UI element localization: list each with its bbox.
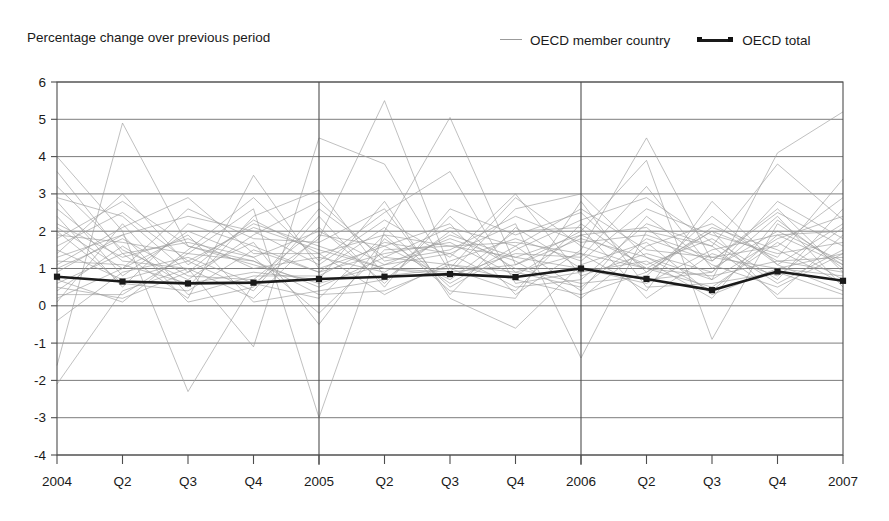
oecd-total-marker <box>447 271 453 277</box>
chart-page: Percentage change over previous period O… <box>0 0 889 521</box>
oecd-total-marker <box>185 280 191 286</box>
x-axis-label: 2007 <box>828 474 858 489</box>
x-axis: 2004Q2Q3Q42005Q2Q3Q42006Q2Q3Q42007 <box>42 455 858 489</box>
oecd-total-marker <box>578 265 584 271</box>
x-axis-label: Q2 <box>375 474 393 489</box>
oecd-total-marker <box>840 278 846 284</box>
x-axis-label: Q4 <box>768 474 787 489</box>
y-axis-label: 5 <box>38 112 46 127</box>
oecd-total-marker <box>316 276 322 282</box>
member-country-line <box>57 186 843 279</box>
y-axis-label: -4 <box>34 448 46 463</box>
y-axis-label: 6 <box>38 75 46 90</box>
y-axis-label: -1 <box>34 336 46 351</box>
x-axis-label: Q4 <box>244 474 263 489</box>
x-axis-label: Q2 <box>113 474 131 489</box>
x-axis-label: 2004 <box>42 474 73 489</box>
oecd-total-marker <box>709 287 715 293</box>
y-axis-label: 4 <box>38 149 46 164</box>
oecd-total-marker <box>643 276 649 282</box>
chart-plot-area: -4-3-2-101234562004Q2Q3Q42005Q2Q3Q42006Q… <box>0 0 889 521</box>
y-axis-label: -2 <box>34 373 46 388</box>
x-axis-label: Q3 <box>441 474 459 489</box>
x-axis-label: Q2 <box>637 474 655 489</box>
oecd-total-marker <box>774 268 780 274</box>
y-axis-label: 0 <box>38 298 46 313</box>
y-axis-label: 2 <box>38 224 46 239</box>
x-axis-label: Q3 <box>179 474 197 489</box>
x-axis-label: 2006 <box>566 474 596 489</box>
x-axis-label: Q4 <box>506 474 525 489</box>
y-axis-label: 1 <box>38 261 46 276</box>
chart-svg: -4-3-2-101234562004Q2Q3Q42005Q2Q3Q42006Q… <box>0 0 889 521</box>
member-country-lines <box>57 101 843 418</box>
oecd-total-marker <box>512 274 518 280</box>
oecd-total-marker <box>250 280 256 286</box>
oecd-total-marker <box>119 278 125 284</box>
y-axis-label: -3 <box>34 410 46 425</box>
x-axis-label: 2005 <box>304 474 334 489</box>
x-axis-label: Q3 <box>703 474 721 489</box>
oecd-total-marker <box>381 274 387 280</box>
y-axis-label: 3 <box>38 186 46 201</box>
member-country-line <box>57 216 843 324</box>
oecd-total-marker <box>54 274 60 280</box>
member-country-line <box>57 224 843 302</box>
